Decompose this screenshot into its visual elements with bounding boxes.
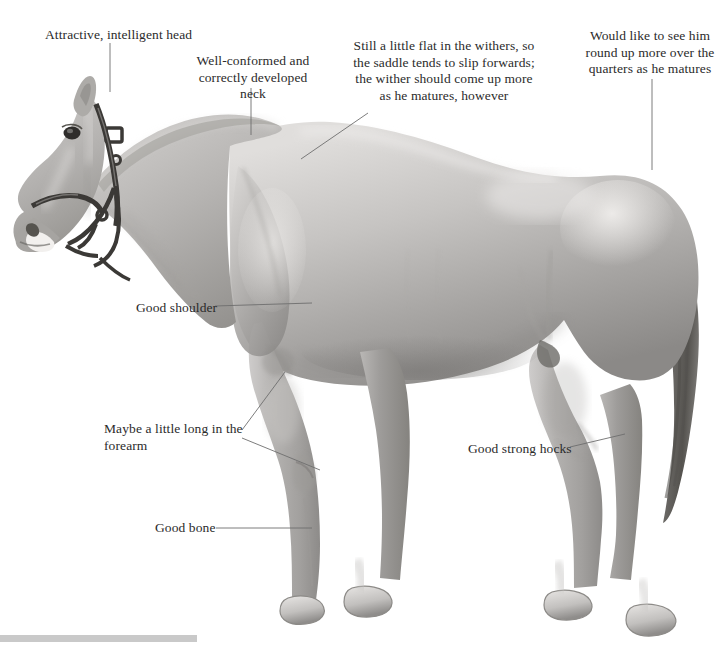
annotation-bone: Good bone — [155, 520, 255, 537]
bottom-rule-bar — [0, 635, 197, 642]
annotation-shoulder: Good shoulder — [136, 300, 256, 317]
annotation-withers: Still a little flat in the withers, so t… — [335, 38, 553, 104]
annotation-head: Attractive, intelligent head — [45, 27, 245, 44]
figure-canvas: Attractive, intelligent head Well-confor… — [0, 0, 726, 655]
annotation-quarters: Would like to see him round up more over… — [576, 28, 724, 78]
annotation-hocks: Good strong hocks — [468, 441, 598, 458]
annotation-forearm: Maybe a little long in the forearm — [104, 421, 254, 454]
annotation-neck: Well-conformed and correctly developed n… — [188, 53, 318, 103]
